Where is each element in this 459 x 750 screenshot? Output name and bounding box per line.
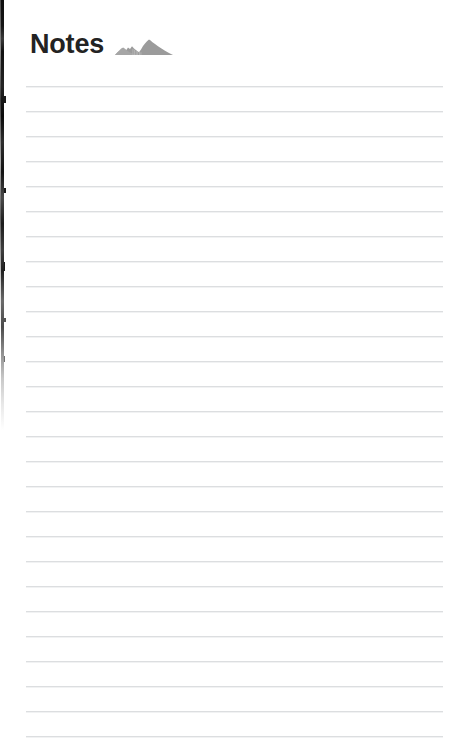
note-line[interactable] (26, 536, 443, 537)
note-line[interactable] (26, 361, 443, 362)
notes-page: Notes (0, 0, 459, 750)
note-line[interactable] (26, 636, 443, 637)
note-line[interactable] (26, 336, 443, 337)
note-line[interactable] (26, 311, 443, 312)
note-line[interactable] (26, 436, 443, 437)
note-line[interactable] (26, 136, 443, 137)
note-line[interactable] (26, 611, 443, 612)
note-line[interactable] (26, 736, 443, 737)
note-line[interactable] (26, 386, 443, 387)
note-line[interactable] (26, 486, 443, 487)
ruled-lines (0, 0, 459, 750)
note-line[interactable] (26, 511, 443, 512)
note-line[interactable] (26, 111, 443, 112)
note-line[interactable] (26, 411, 443, 412)
note-line[interactable] (26, 186, 443, 187)
note-line[interactable] (26, 286, 443, 287)
note-line[interactable] (26, 261, 443, 262)
note-line[interactable] (26, 661, 443, 662)
note-line[interactable] (26, 161, 443, 162)
note-line[interactable] (26, 561, 443, 562)
note-line[interactable] (26, 211, 443, 212)
note-line[interactable] (26, 86, 443, 87)
note-line[interactable] (26, 236, 443, 237)
note-line[interactable] (26, 711, 443, 712)
note-line[interactable] (26, 586, 443, 587)
note-line[interactable] (26, 686, 443, 687)
note-line[interactable] (26, 461, 443, 462)
